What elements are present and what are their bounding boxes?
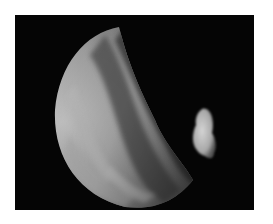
small-moon [193,109,216,159]
planet-photo [15,15,254,210]
planet-crescent [15,15,254,210]
photo-frame: Crescent of a cloudy planet with a small… [15,15,254,210]
